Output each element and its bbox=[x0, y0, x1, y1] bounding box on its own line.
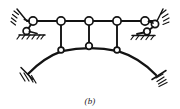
deck-right-support-group bbox=[131, 9, 169, 40]
figure-caption: (b) bbox=[0, 96, 180, 106]
deck-right-upper-wall bbox=[157, 9, 163, 21]
deck-right-lower-pin bbox=[144, 28, 151, 35]
deck-right-upper-hatch-3 bbox=[164, 18, 170, 21]
deck-joint-2 bbox=[57, 17, 65, 25]
structural-diagram bbox=[0, 0, 180, 109]
deck-left-ground-link bbox=[30, 32, 38, 34]
hanger-base-joints-group bbox=[58, 43, 120, 53]
deck-right-upper-hatch-2 bbox=[163, 14, 169, 18]
deck-right-upper-hatch-4 bbox=[163, 22, 169, 25]
hanger-base-joint-left bbox=[58, 47, 64, 53]
deck-joint-1 bbox=[29, 17, 37, 25]
arch-rib bbox=[28, 48, 156, 75]
hanger-base-joint-middle bbox=[86, 43, 93, 50]
deck-left-upper-hatch-4 bbox=[11, 22, 16, 26]
deck-joint-3 bbox=[85, 17, 93, 25]
deck-left-upper-hatch-2 bbox=[13, 15, 18, 19]
deck-right-ground-link bbox=[137, 33, 144, 35]
deck-left-upper-hatch-3 bbox=[12, 18, 17, 22]
arch-rib-group bbox=[28, 48, 156, 75]
deck-joint-4 bbox=[113, 17, 121, 25]
deck-left-ground-hatch-1 bbox=[17, 35, 20, 39]
figure-container: (b) bbox=[0, 0, 180, 109]
deck-left-support-group bbox=[11, 9, 45, 39]
hanger-base-joint-right bbox=[114, 47, 120, 53]
deck-left-upper-hatch-1 bbox=[14, 11, 19, 15]
